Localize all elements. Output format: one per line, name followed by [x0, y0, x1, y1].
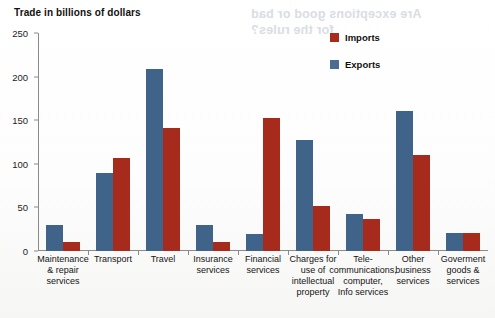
bar-exports[interactable] — [296, 140, 313, 251]
bar-imports[interactable] — [413, 155, 430, 251]
x-axis-label-line: Info services — [324, 287, 402, 298]
y-axis-tick-mark — [34, 33, 38, 34]
bar-group — [38, 33, 88, 251]
legend-swatch-exports-icon — [330, 60, 339, 69]
y-axis-tick-mark — [34, 120, 38, 121]
bar-group — [238, 33, 288, 251]
y-axis-tick-label: 100 — [12, 158, 28, 169]
x-axis-label-line: goods & — [424, 265, 495, 276]
x-axis-category-labels: Maintenance& repairservicesTransportTrav… — [38, 254, 488, 316]
bar-imports[interactable] — [263, 118, 280, 251]
bar-chart: Trade in billions of dollars 05010015020… — [0, 0, 495, 318]
bar-imports[interactable] — [363, 219, 380, 251]
y-axis-tick-mark — [34, 163, 38, 164]
legend-item-exports[interactable]: Exports — [330, 59, 450, 70]
bar-group — [188, 33, 238, 251]
bar-group — [138, 33, 188, 251]
bar-imports[interactable] — [313, 206, 330, 251]
y-axis-tick-label: 250 — [12, 28, 28, 39]
x-axis-label: Govermentgoods &services — [424, 254, 495, 287]
bar-imports[interactable] — [63, 242, 80, 251]
bar-exports[interactable] — [246, 234, 263, 251]
bar-exports[interactable] — [46, 225, 63, 251]
x-axis-label-line: & repair — [24, 265, 102, 276]
bar-group — [88, 33, 138, 251]
bar-imports[interactable] — [163, 128, 180, 251]
legend-item-imports[interactable]: Imports — [330, 32, 450, 43]
y-axis: 050100150200250 — [0, 33, 34, 251]
y-axis-tick-mark — [34, 207, 38, 208]
x-axis-label-line: services — [24, 276, 102, 287]
legend-label-imports: Imports — [345, 32, 380, 43]
x-axis-label-line: services — [424, 276, 495, 287]
bar-exports[interactable] — [96, 173, 113, 251]
bar-exports[interactable] — [446, 233, 463, 251]
bar-exports[interactable] — [346, 214, 363, 251]
legend-swatch-imports-icon — [330, 33, 339, 42]
bar-imports[interactable] — [213, 242, 230, 251]
chart-title: Trade in billions of dollars — [14, 7, 141, 18]
y-axis-tick-label: 50 — [17, 202, 28, 213]
bar-exports[interactable] — [396, 111, 413, 251]
bar-imports[interactable] — [113, 158, 130, 251]
y-axis-tick-label: 200 — [12, 71, 28, 82]
bar-exports[interactable] — [146, 69, 163, 251]
y-axis-tick-mark — [34, 251, 38, 252]
x-axis-label-line: Goverment — [424, 254, 495, 265]
y-axis-tick-mark — [34, 76, 38, 77]
bar-exports[interactable] — [196, 225, 213, 251]
legend: Imports Exports — [330, 32, 450, 86]
legend-label-exports: Exports — [345, 59, 380, 70]
y-axis-tick-label: 150 — [12, 115, 28, 126]
bar-imports[interactable] — [463, 233, 480, 251]
